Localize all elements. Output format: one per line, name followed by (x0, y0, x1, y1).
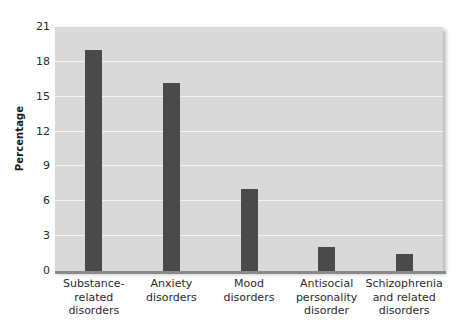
x-tick-label-line: Antisocial (288, 277, 366, 291)
bar (85, 50, 102, 271)
x-axis-line (55, 271, 446, 274)
y-tick-label: 12 (28, 126, 50, 137)
x-tick-label-line: personality (288, 291, 366, 305)
bar (396, 254, 413, 271)
gridline (55, 165, 443, 166)
bar (241, 189, 258, 271)
x-tick-label-line: disorders (210, 291, 288, 305)
x-tick-label: Schizophreniaand relateddisorders (365, 277, 443, 318)
x-tick-label-line: related (55, 291, 133, 305)
y-tick-label: 15 (28, 91, 50, 102)
x-tick-label-line: and related (365, 291, 443, 305)
bar-chart-figure: Percentage 036912151821 Substance-relate… (0, 0, 475, 329)
y-tick-label: 3 (28, 230, 50, 241)
x-tick-label: Anxietydisorders (133, 277, 211, 304)
gridline (55, 61, 443, 62)
bar (318, 247, 335, 271)
x-tick-label-line: Anxiety (133, 277, 211, 291)
gridline (55, 131, 443, 132)
x-tick-label-line: Mood (210, 277, 288, 291)
bar (163, 83, 180, 271)
x-tick-label-line: Substance- (55, 277, 133, 291)
x-tick-label-line: disorders (133, 291, 211, 305)
x-tick-label-line: disorders (55, 304, 133, 318)
y-axis-tick-labels: 036912151821 (28, 0, 50, 329)
x-tick-label: Antisocialpersonalitydisorder (288, 277, 366, 318)
x-tick-label: Mooddisorders (210, 277, 288, 304)
y-axis-title: Percentage (14, 99, 25, 179)
gridline (55, 96, 443, 97)
x-tick-label-line: disorder (288, 304, 366, 318)
x-axis-tick-labels: Substance-relateddisordersAnxietydisorde… (55, 277, 443, 327)
x-tick-label-line: Schizophrenia (365, 277, 443, 291)
y-tick-label: 0 (28, 265, 50, 276)
y-tick-label: 18 (28, 56, 50, 67)
x-tick-label-line: disorders (365, 304, 443, 318)
y-tick-label: 21 (28, 21, 50, 32)
plot-inner (55, 27, 443, 271)
x-tick-label: Substance-relateddisorders (55, 277, 133, 318)
y-tick-label: 9 (28, 160, 50, 171)
y-tick-label: 6 (28, 195, 50, 206)
plot-area (55, 27, 443, 271)
